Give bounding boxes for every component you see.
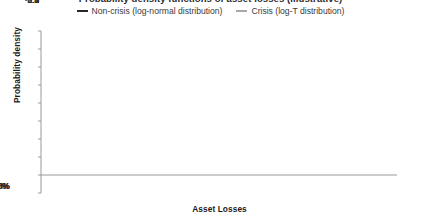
- plot-area: [0, 0, 421, 220]
- axis-lines: [38, 31, 397, 193]
- chart-figure: Probability density functions of asset l…: [0, 0, 421, 220]
